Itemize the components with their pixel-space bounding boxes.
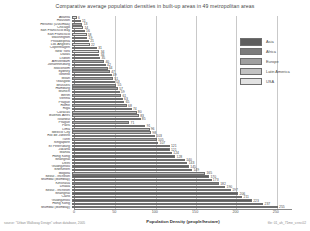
x-tick-250: 250 bbox=[273, 210, 279, 214]
legend-label: Latin America bbox=[266, 69, 290, 74]
legend-item-africa[interactable]: Africa bbox=[240, 48, 308, 56]
x-tick-50: 50 bbox=[112, 210, 116, 214]
category-label: Mumbai (Bombay) bbox=[0, 206, 72, 210]
bar-value-label: 255 bbox=[278, 205, 285, 209]
x-tick-100: 100 bbox=[152, 210, 158, 214]
legend-label: Africa bbox=[266, 49, 276, 54]
chart-title: Comparative average population densities… bbox=[0, 3, 310, 9]
legend-swatch bbox=[240, 78, 262, 86]
x-axis-label: Population Density (people/hectare) bbox=[74, 219, 292, 224]
legend-label: Europe bbox=[266, 59, 279, 64]
bar bbox=[72, 206, 278, 208]
source-note: source: "Urban Walkway Design" urban dat… bbox=[4, 221, 85, 225]
legend-label: USA bbox=[266, 79, 274, 84]
legend-swatch bbox=[240, 48, 262, 56]
bar-track: 255 bbox=[72, 206, 310, 209]
legend: AsiaAfricaEuropeLatin AmericaUSA bbox=[240, 38, 308, 87]
bar-row: Mumbai (Bombay)255 bbox=[0, 206, 310, 209]
x-tick-150: 150 bbox=[192, 210, 198, 214]
x-tick-0: 0 bbox=[73, 210, 75, 214]
x-axis-line bbox=[74, 209, 292, 210]
legend-item-usa[interactable]: USA bbox=[240, 78, 308, 86]
chart-root: Comparative average population densities… bbox=[0, 0, 310, 231]
credit-note: file: 01_ah_71me_v.rev.02 bbox=[268, 221, 306, 225]
legend-swatch bbox=[240, 68, 262, 76]
legend-item-asia[interactable]: Asia bbox=[240, 38, 308, 46]
legend-swatch bbox=[240, 38, 262, 46]
legend-label: Asia bbox=[266, 39, 274, 44]
legend-item-latin-america[interactable]: Latin America bbox=[240, 68, 308, 76]
legend-swatch bbox=[240, 58, 262, 66]
x-tick-200: 200 bbox=[232, 210, 238, 214]
legend-item-europe[interactable]: Europe bbox=[240, 58, 308, 66]
